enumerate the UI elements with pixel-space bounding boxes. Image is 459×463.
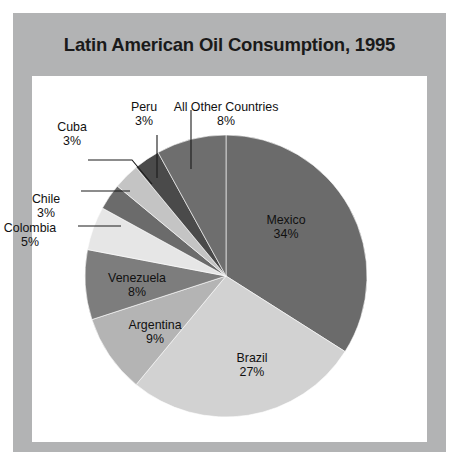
slice-label-percent: 8% bbox=[108, 285, 166, 299]
slice-label-percent: 27% bbox=[237, 365, 268, 379]
slice-label-peru: Peru3% bbox=[131, 100, 157, 129]
slice-label-name: Venezuela bbox=[108, 271, 166, 285]
slice-label-name: Colombia bbox=[4, 221, 56, 235]
slice-label-chile: Chile3% bbox=[32, 192, 60, 221]
slice-label-name: Chile bbox=[32, 192, 60, 206]
slice-label-brazil: Brazil27% bbox=[237, 351, 268, 380]
slice-label-percent: 8% bbox=[174, 114, 279, 128]
slice-label-cuba: Cuba3% bbox=[57, 120, 87, 149]
slice-label-percent: 9% bbox=[128, 332, 181, 346]
slice-label-name: Mexico bbox=[266, 213, 305, 227]
slice-label-name: Brazil bbox=[237, 351, 268, 365]
slice-label-percent: 3% bbox=[57, 134, 87, 148]
slice-label-percent: 3% bbox=[131, 114, 157, 128]
slice-label-name: Cuba bbox=[57, 120, 87, 134]
slice-label-percent: 5% bbox=[4, 235, 56, 249]
slice-label-percent: 34% bbox=[266, 227, 305, 241]
slice-label-all-other-countries: All Other Countries8% bbox=[174, 100, 279, 129]
slice-label-name: Argentina bbox=[128, 318, 181, 332]
slice-label-name: All Other Countries bbox=[174, 100, 279, 114]
slice-label-venezuela: Venezuela8% bbox=[108, 271, 166, 300]
pie-chart-figure: Latin American Oil Consumption, 1995 Mex… bbox=[0, 0, 459, 463]
slice-label-colombia: Colombia5% bbox=[4, 221, 56, 250]
slice-label-percent: 3% bbox=[32, 206, 60, 220]
pie-svg bbox=[0, 0, 459, 463]
slice-label-name: Peru bbox=[131, 100, 157, 114]
slice-label-argentina: Argentina9% bbox=[128, 318, 181, 347]
slice-label-mexico: Mexico34% bbox=[266, 213, 305, 242]
